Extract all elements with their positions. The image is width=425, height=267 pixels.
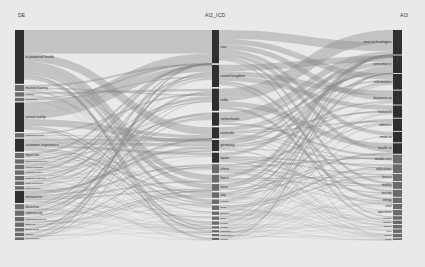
sankey-canvas: ai-powered healthmachine learningrobotic… <box>0 0 425 267</box>
sankey-node[interactable] <box>15 98 24 101</box>
sankey-node-label: brazil <box>221 217 227 220</box>
sankey-node[interactable] <box>212 175 219 183</box>
sankey-node-label: research <box>378 110 392 114</box>
sankey-node-label: autonomous driving <box>26 218 48 221</box>
sankey-node[interactable] <box>212 221 219 224</box>
sankey-node[interactable] <box>212 89 219 111</box>
sankey-node[interactable] <box>15 181 24 184</box>
sankey-node-label: computer vision <box>26 171 43 174</box>
sankey-node-label: customer experience <box>26 143 59 147</box>
sankey-node-label: cybersecurity <box>26 211 44 215</box>
sankey-node[interactable] <box>15 153 24 158</box>
sankey-node[interactable] <box>212 206 219 210</box>
sankey-node-label: italy <box>221 193 227 197</box>
sankey-node[interactable] <box>15 139 24 152</box>
sankey-node[interactable] <box>15 217 24 221</box>
sankey-node[interactable] <box>212 234 219 236</box>
sankey-node-label: blockchain <box>26 205 40 209</box>
sankey-node-label: robotics <box>379 123 392 127</box>
sankey-node[interactable] <box>393 132 402 143</box>
sankey-node-label: canada <box>221 200 230 203</box>
sankey-node[interactable] <box>393 225 402 229</box>
sankey-node[interactable] <box>212 230 219 232</box>
sankey-node[interactable] <box>393 210 402 215</box>
sankey-node[interactable] <box>393 221 402 225</box>
sankey-node[interactable] <box>393 119 402 131</box>
sankey-node[interactable] <box>393 190 402 197</box>
sankey-node-label: china <box>221 167 230 171</box>
sankey-node[interactable] <box>212 238 219 240</box>
sankey-node[interactable] <box>15 211 24 216</box>
sankey-node-label: space <box>385 238 392 241</box>
sankey-node[interactable] <box>15 191 24 203</box>
sankey-node[interactable] <box>393 30 402 55</box>
sankey-node[interactable] <box>212 212 219 215</box>
sankey-node[interactable] <box>15 30 24 84</box>
sankey-node[interactable] <box>15 204 24 209</box>
sankey-node-label: ireland <box>221 222 229 225</box>
sankey-node[interactable] <box>212 65 219 87</box>
sankey-node[interactable] <box>212 164 219 173</box>
sankey-node[interactable] <box>393 238 402 240</box>
sankey-node-label: digital health <box>26 228 40 231</box>
sankey-node-label: new technologies <box>364 40 392 44</box>
sankey-node[interactable] <box>15 237 24 240</box>
sankey-node[interactable] <box>15 92 24 96</box>
sankey-node[interactable] <box>393 91 402 105</box>
sankey-node[interactable] <box>393 174 402 181</box>
sankey-node-label: spain <box>221 156 230 160</box>
sankey-node-label: cloud platform <box>26 187 41 190</box>
sankey-node[interactable] <box>15 133 24 137</box>
sankey-node-label: information <box>374 80 392 84</box>
sankey-node[interactable] <box>393 216 402 220</box>
sankey-node[interactable] <box>393 55 402 73</box>
sankey-node[interactable] <box>393 164 402 173</box>
sankey-node[interactable] <box>15 159 24 163</box>
sankey-node[interactable] <box>212 30 219 63</box>
sankey-node[interactable] <box>393 155 402 164</box>
sankey-node[interactable] <box>212 112 219 125</box>
sankey-node[interactable] <box>393 105 402 117</box>
sankey-node[interactable] <box>212 192 219 198</box>
sankey-links <box>24 34 393 240</box>
sankey-node[interactable] <box>15 233 24 236</box>
sankey-node-label: finance <box>382 175 392 179</box>
sankey-node[interactable] <box>15 228 24 231</box>
sankey-node-label: ai-powered health <box>26 55 55 59</box>
sankey-node[interactable] <box>393 182 402 189</box>
sankey-node[interactable] <box>393 234 402 238</box>
sankey-node-label: main ai <box>380 135 392 139</box>
sankey-node[interactable] <box>393 198 402 203</box>
sankey-node[interactable] <box>15 186 24 189</box>
sankey-node-label: predictive analytics <box>26 177 47 180</box>
sankey-node-label: consumer e <box>373 62 392 66</box>
sankey-node[interactable] <box>212 153 219 163</box>
sankey-node[interactable] <box>212 216 219 219</box>
sankey-node[interactable] <box>393 229 402 233</box>
sankey-node[interactable] <box>212 226 219 228</box>
sankey-node[interactable] <box>15 223 24 227</box>
sankey-node-label: korea <box>221 185 229 189</box>
sankey-node-label: logistics <box>383 217 392 220</box>
sankey-node-label: france <box>221 176 229 180</box>
sankey-node[interactable] <box>393 74 402 90</box>
sankey-node[interactable] <box>15 170 24 174</box>
sankey-node-label: virtual reality <box>26 115 46 119</box>
sankey-node-label: fintech <box>26 233 34 236</box>
sankey-node[interactable] <box>15 85 24 91</box>
sankey-node[interactable] <box>212 199 219 203</box>
sankey-node-label: education <box>376 167 392 171</box>
sankey-node[interactable] <box>393 143 402 154</box>
sankey-node-label: india <box>221 98 229 102</box>
sankey-node[interactable] <box>212 127 219 138</box>
sankey-node[interactable] <box>15 165 24 169</box>
sankey-node[interactable] <box>212 184 219 191</box>
sankey-node-label: machine learning <box>26 86 48 90</box>
sankey-node[interactable] <box>393 204 402 209</box>
sankey-node-label: automation <box>26 98 38 101</box>
sankey-node[interactable] <box>212 140 219 151</box>
sankey-node[interactable] <box>15 102 24 131</box>
sankey-node-label: business ai <box>374 96 392 100</box>
sankey-node-label: sweden <box>221 212 230 215</box>
sankey-node[interactable] <box>15 176 24 180</box>
